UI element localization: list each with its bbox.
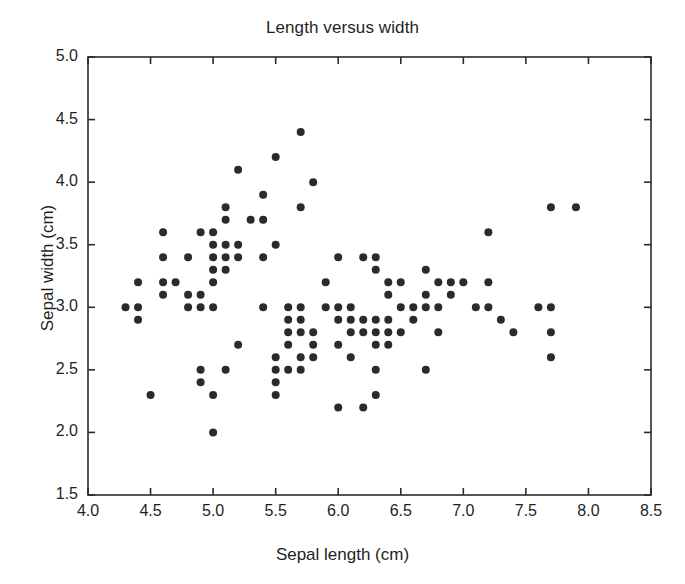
scatter-point xyxy=(434,328,442,336)
scatter-point xyxy=(372,391,380,399)
axis-ticks xyxy=(88,57,651,495)
y-tick-label: 1.5 xyxy=(26,485,78,503)
scatter-point xyxy=(197,378,205,386)
x-tick-label: 5.5 xyxy=(249,502,303,520)
x-tick-label: 5.0 xyxy=(186,502,240,520)
scatter-point xyxy=(422,303,430,311)
scatter-point xyxy=(422,366,430,374)
scatter-point xyxy=(209,253,217,261)
scatter-point xyxy=(222,203,230,211)
scatter-point xyxy=(234,166,242,174)
scatter-point xyxy=(272,353,280,361)
scatter-point xyxy=(384,291,392,299)
scatter-point xyxy=(372,253,380,261)
x-tick-label: 8.0 xyxy=(561,502,615,520)
scatter-point xyxy=(259,303,267,311)
scatter-point xyxy=(359,316,367,324)
scatter-point xyxy=(497,316,505,324)
x-tick-label: 6.0 xyxy=(311,502,365,520)
scatter-point xyxy=(259,216,267,224)
y-tick-label: 2.0 xyxy=(26,422,78,440)
scatter-point xyxy=(159,291,167,299)
scatter-point xyxy=(122,303,130,311)
y-tick-label: 4.0 xyxy=(26,172,78,190)
scatter-point xyxy=(197,303,205,311)
scatter-point xyxy=(309,353,317,361)
scatter-point xyxy=(159,278,167,286)
scatter-point xyxy=(209,266,217,274)
data-points xyxy=(122,128,580,436)
x-tick-label: 7.0 xyxy=(436,502,490,520)
scatter-point xyxy=(334,253,342,261)
scatter-point xyxy=(222,216,230,224)
scatter-point xyxy=(209,391,217,399)
scatter-point xyxy=(334,316,342,324)
x-tick-label: 4.0 xyxy=(61,502,115,520)
y-tick-label: 4.5 xyxy=(26,110,78,128)
scatter-point xyxy=(359,328,367,336)
scatter-point xyxy=(197,228,205,236)
scatter-point xyxy=(372,266,380,274)
scatter-point xyxy=(347,316,355,324)
scatter-point xyxy=(384,328,392,336)
scatter-point xyxy=(484,278,492,286)
scatter-point xyxy=(159,253,167,261)
scatter-point xyxy=(384,316,392,324)
scatter-point xyxy=(297,316,305,324)
scatter-point xyxy=(284,316,292,324)
x-tick-label: 8.5 xyxy=(624,502,678,520)
scatter-point xyxy=(447,278,455,286)
scatter-plot-figure: Length versus width Sepal width (cm) Sep… xyxy=(0,0,685,584)
scatter-point xyxy=(359,403,367,411)
plot-border xyxy=(88,57,651,495)
scatter-point xyxy=(297,353,305,361)
scatter-point xyxy=(547,203,555,211)
y-tick-label: 2.5 xyxy=(26,360,78,378)
scatter-point xyxy=(484,303,492,311)
scatter-point xyxy=(134,316,142,324)
x-tick-label: 7.5 xyxy=(499,502,553,520)
scatter-point xyxy=(272,153,280,161)
plot-canvas xyxy=(0,0,685,584)
scatter-point xyxy=(547,328,555,336)
scatter-point xyxy=(259,191,267,199)
scatter-point xyxy=(134,303,142,311)
scatter-point xyxy=(322,278,330,286)
y-tick-label: 5.0 xyxy=(26,47,78,65)
scatter-point xyxy=(359,253,367,261)
scatter-point xyxy=(147,391,155,399)
scatter-point xyxy=(297,303,305,311)
scatter-point xyxy=(209,303,217,311)
scatter-point xyxy=(234,341,242,349)
scatter-point xyxy=(209,228,217,236)
scatter-point xyxy=(222,266,230,274)
x-tick-label: 6.5 xyxy=(374,502,428,520)
scatter-point xyxy=(372,316,380,324)
scatter-point xyxy=(347,303,355,311)
scatter-point xyxy=(234,241,242,249)
scatter-point xyxy=(297,328,305,336)
scatter-point xyxy=(284,366,292,374)
scatter-point xyxy=(259,253,267,261)
scatter-point xyxy=(272,241,280,249)
scatter-point xyxy=(334,303,342,311)
scatter-point xyxy=(234,253,242,261)
scatter-point xyxy=(309,328,317,336)
scatter-point xyxy=(509,328,517,336)
scatter-point xyxy=(172,278,180,286)
scatter-point xyxy=(534,303,542,311)
scatter-point xyxy=(384,341,392,349)
scatter-point xyxy=(459,278,467,286)
scatter-point xyxy=(384,278,392,286)
y-tick-label: 3.0 xyxy=(26,297,78,315)
scatter-point xyxy=(272,366,280,374)
scatter-point xyxy=(447,291,455,299)
scatter-point xyxy=(184,253,192,261)
scatter-point xyxy=(422,266,430,274)
scatter-point xyxy=(184,291,192,299)
scatter-point xyxy=(222,366,230,374)
plot-frame xyxy=(88,57,651,495)
scatter-point xyxy=(209,428,217,436)
scatter-point xyxy=(309,341,317,349)
scatter-point xyxy=(197,291,205,299)
